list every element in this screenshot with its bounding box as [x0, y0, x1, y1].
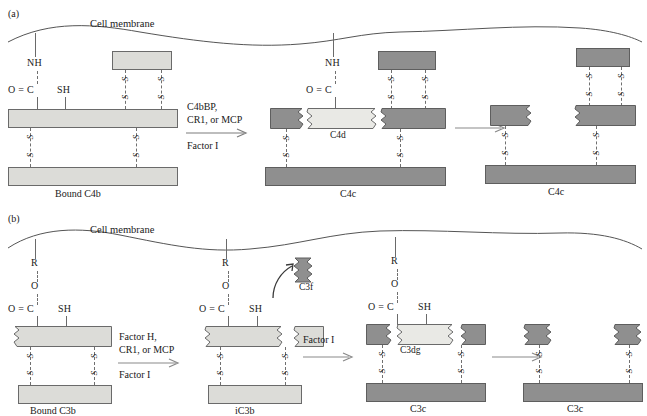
reaction-a-1-factor: Factor I: [187, 139, 218, 152]
protein-box-c3c-beta-b4: [523, 383, 643, 402]
disulfide-s-glyph: S: [280, 348, 290, 364]
panel-b: (b) Cell membrane R O O = C SH S S S S B…: [0, 205, 647, 409]
disulfide-s-glyph: S: [156, 89, 166, 105]
panel-a: (a) Cell membrane NH O = C SH S S S S S …: [0, 0, 647, 205]
chem-label-o-b2: O: [222, 280, 230, 291]
disulfide-s-glyph: S: [281, 130, 291, 146]
disulfide-bond-a3-4: S S: [588, 126, 604, 165]
disulfide-s-glyph: S: [215, 348, 225, 364]
disulfide-bond-b1-1: S S: [22, 347, 38, 385]
disulfide-bond-a2-3: S S: [278, 129, 294, 167]
disulfide-bond-a3-3: S S: [497, 126, 513, 165]
reaction-a-1-above: C4bBP, CR1, or MCP: [187, 100, 242, 126]
thiol-stem-a1: [65, 97, 66, 109]
state-name-c4c-middle: C4c: [340, 188, 356, 199]
disulfide-s-glyph: S: [616, 68, 626, 84]
disulfide-s-glyph: S: [25, 147, 35, 163]
disulfide-s-glyph: S: [131, 129, 141, 145]
protein-box-c3-alpha-b1: [8, 326, 112, 347]
fragment-label-c3dg: C3dg: [400, 345, 421, 355]
disulfide-s-glyph: S: [25, 129, 35, 145]
reaction-a-1-line-1: C4bBP,: [187, 100, 242, 113]
disulfide-bond-b3-1: S S: [374, 345, 390, 383]
disulfide-bond-a2-1: S S: [383, 70, 399, 109]
disulfide-bond-a3-1: S S: [581, 67, 597, 106]
disulfide-s-glyph: S: [395, 130, 405, 146]
disulfide-s-glyph: S: [624, 363, 634, 379]
cleaved-alpha-chain-a3: [490, 105, 636, 126]
disulfide-s-glyph: S: [377, 363, 387, 379]
disulfide-s-glyph: S: [280, 365, 290, 381]
disulfide-s-glyph: S: [25, 365, 35, 381]
reaction-a-1-line-2: CR1, or MCP: [187, 113, 242, 126]
reaction-b-1-factor: Factor I: [119, 368, 150, 381]
disulfide-bond-a1-2: S S: [153, 70, 169, 109]
state-name-c3c-middle: C3c: [410, 403, 426, 414]
chem-label-r-b2: R: [222, 257, 229, 268]
disulfide-bond-a3-2: S S: [613, 67, 629, 106]
cell-membrane-label-b: Cell membrane: [90, 224, 154, 235]
disulfide-bond-a1-1: S S: [117, 70, 133, 109]
disulfide-s-glyph: S: [534, 346, 544, 362]
amide-dash-a1: [37, 71, 38, 84]
cleaved-alpha-chain-b4: [523, 324, 643, 345]
disulfide-s-glyph: S: [500, 145, 510, 161]
membrane-anchor-stem-b1: [35, 239, 36, 259]
chem-label-oc-a1: O = C: [8, 84, 34, 95]
disulfide-s-glyph: S: [624, 346, 634, 362]
disulfide-bond-a1-4: S S: [128, 128, 144, 167]
fragment-label-c4d: C4d: [330, 130, 346, 140]
disulfide-s-glyph: S: [25, 348, 35, 364]
chem-label-sh-b2: SH: [249, 303, 262, 314]
state-name-c3c-right: C3c: [567, 403, 583, 414]
chem-label-oc-b3: O = C: [368, 301, 394, 312]
chem-label-r-b1: R: [31, 257, 38, 268]
reaction-arrow-a-1: [186, 127, 252, 139]
state-name-c4c-right: C4c: [548, 186, 564, 197]
ester-dash-b2-2: [228, 294, 229, 305]
disulfide-s-glyph: S: [386, 89, 396, 105]
protein-box-c3-beta-b2: [208, 385, 302, 404]
protein-box-c4c-top-a2: [378, 51, 436, 70]
chem-label-sh-b1: SH: [58, 303, 71, 314]
disulfide-s-glyph: S: [386, 71, 396, 87]
disulfide-bond-b2-1: S S: [212, 347, 228, 385]
disulfide-s-glyph: S: [120, 71, 130, 87]
chem-label-r-b3: R: [391, 255, 398, 266]
disulfide-s-glyph: S: [281, 147, 291, 163]
chem-label-oc-b1: O = C: [8, 303, 34, 314]
disulfide-s-glyph: S: [584, 68, 594, 84]
chem-label-o-b1: O: [31, 280, 39, 291]
chem-label-sh-a1: SH: [57, 84, 70, 95]
disulfide-s-glyph: S: [131, 147, 141, 163]
chem-label-sh-b3: SH: [418, 301, 431, 312]
disulfide-bond-b1-2: S S: [86, 347, 102, 385]
reaction-b-2-above: Factor I: [303, 333, 334, 346]
reaction-arrow-b-2: [303, 351, 359, 363]
disulfide-s-glyph: S: [420, 71, 430, 87]
protein-box-c4-alpha-a1: [8, 109, 178, 128]
membrane-anchor-stem-b2: [226, 239, 227, 259]
cell-membrane-label-a: Cell membrane: [90, 18, 154, 29]
disulfide-bond-a2-4: S S: [392, 129, 408, 167]
disulfide-s-glyph: S: [377, 346, 387, 362]
reaction-b-2-factor: Factor I: [303, 333, 334, 346]
reaction-b-1-line-1: Factor H,: [119, 330, 174, 343]
disulfide-s-glyph: S: [420, 89, 430, 105]
cleaved-alpha-chain-b3: [366, 324, 486, 345]
protein-box-c4c-beta-a2: [265, 167, 446, 186]
carbonyl-stem-a1: [37, 97, 38, 109]
disulfide-s-glyph: S: [456, 363, 466, 379]
state-name-bound-c4b: Bound C4b: [55, 188, 101, 199]
chem-label-o-b3: O: [391, 278, 399, 289]
disulfide-bond-b4-2: S S: [621, 345, 637, 383]
amide-dash-a2: [335, 71, 336, 84]
release-arrow-c3f: [269, 260, 299, 300]
membrane-anchor-stem-a2: [333, 33, 334, 57]
disulfide-s-glyph: S: [395, 147, 405, 163]
fragment-label-c3f: C3f: [299, 282, 313, 292]
disulfide-bond-b3-2: S S: [453, 345, 469, 383]
disulfide-s-glyph: S: [156, 71, 166, 87]
state-name-ic3b: iC3b: [235, 405, 254, 416]
disulfide-s-glyph: S: [591, 145, 601, 161]
